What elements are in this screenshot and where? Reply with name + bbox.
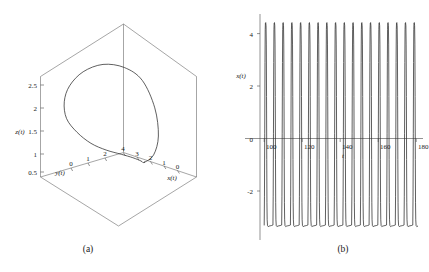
y-tick-2 (105, 158, 107, 161)
y-axis-title: x(t) (235, 72, 246, 80)
y-axis: 0 1 2 y(t) (54, 150, 107, 177)
x-tick-label-180: 180 (418, 143, 429, 151)
figure-container: 2.5 2 1.5 1 0.5 z(t) 0 1 2 y(t) (0, 0, 429, 272)
panel-b-time-series: 4 2 0 -2 x(t) 100 120 140 160 180 t (215, 0, 429, 272)
trajectory-curve-3d (64, 64, 158, 162)
trajectory-path (64, 64, 158, 162)
box-edge-top-right (124, 24, 197, 77)
x-tick-label-4: 4 (121, 145, 125, 153)
y-tick-label-0: 0 (250, 136, 254, 144)
z-tick-label-2.5: 2.5 (28, 82, 37, 90)
box-edge-top-left (41, 24, 124, 77)
x-axis-title: x(t) (166, 174, 177, 182)
y-tick-label-2: 2 (250, 83, 254, 91)
panel-a-phase-space: 2.5 2 1.5 1 0.5 z(t) 0 1 2 y(t) (0, 0, 215, 272)
box-edge-base-front (41, 177, 197, 226)
x-tick-label-120: 120 (304, 143, 315, 151)
waveform-path (264, 23, 417, 227)
y-tick-label-0: 0 (69, 160, 73, 168)
y-tick-label-4: 4 (250, 31, 254, 39)
y-axis-title: y(t) (54, 169, 65, 177)
y-tick-label-2: 2 (103, 150, 107, 158)
x-tick-label-1: 1 (162, 159, 166, 167)
z-tick-label-2: 2 (34, 105, 38, 113)
y-tick-1 (88, 163, 90, 166)
z-tick-label-1.5: 1.5 (28, 128, 37, 136)
oscillation-curve (264, 23, 417, 227)
z-tick-label-0.5: 0.5 (28, 169, 37, 177)
x-tick-label-3: 3 (135, 150, 139, 158)
bounding-box-wireframe (41, 24, 197, 226)
panel-b-caption: (b) (337, 244, 348, 255)
z-tick-label-1: 1 (34, 151, 38, 159)
panel-a-svg: 2.5 2 1.5 1 0.5 z(t) 0 1 2 y(t) (0, 0, 215, 272)
y-tick-label-1: 1 (86, 155, 90, 163)
y-axis-ticks: 4 2 0 -2 x(t) (235, 31, 260, 197)
y-tick-0 (71, 168, 73, 171)
panel-b-svg: 4 2 0 -2 x(t) 100 120 140 160 180 t (215, 0, 429, 272)
y-tick-label-neg2: -2 (247, 188, 253, 196)
z-axis: 2.5 2 1.5 1 0.5 z(t) (14, 82, 44, 177)
z-axis-title: z(t) (14, 128, 25, 136)
x-tick-label-0: 0 (176, 163, 180, 171)
x-axis: 4 3 2 1 0 x(t) (121, 145, 180, 182)
panel-a-caption: (a) (83, 244, 94, 255)
